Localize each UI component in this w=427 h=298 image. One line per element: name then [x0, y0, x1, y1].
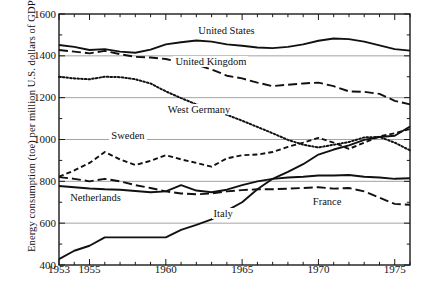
series-label-united-states: United States [196, 25, 256, 36]
series-label-france: France [311, 196, 344, 207]
chart-figure: Energy consumption (toe) per million U.S… [0, 0, 427, 298]
series-label-west-germany: West Germany [166, 104, 232, 115]
plot-area [0, 0, 427, 298]
series-label-united-kingdom: United Kingdom [173, 56, 248, 67]
series-label-sweden: Sweden [109, 130, 146, 141]
series-label-italy: Italy [212, 208, 235, 219]
series-label-netherlands: Netherlands [68, 192, 123, 203]
series-line-united-states [59, 38, 410, 52]
